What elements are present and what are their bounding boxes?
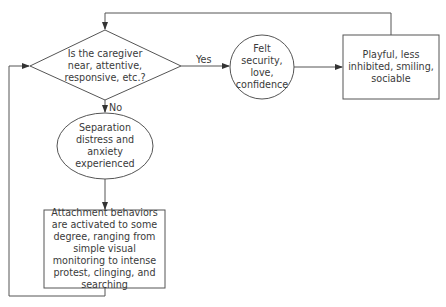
playful-text: Playful, less inhibited, smiling, sociab… [348, 40, 434, 94]
attachment-text: Attachment behaviors are activated to so… [48, 213, 161, 285]
yes-label: Yes [196, 54, 212, 65]
edge-playful-loop [105, 13, 391, 35]
decision-text: Is the caregiver near, attentive, respon… [60, 40, 150, 92]
no-label: No [109, 102, 122, 113]
separation-text: Separation distress and anxiety experien… [68, 120, 142, 172]
felt-security-text: Felt security, love, confidence [232, 45, 292, 89]
